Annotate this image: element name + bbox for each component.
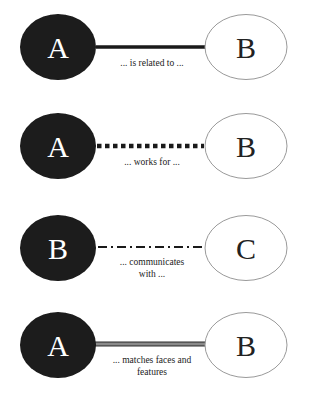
relation-row-1: A B (20, 14, 287, 80)
node-source-letter: A (47, 130, 69, 163)
edge-label-row-1: ... is related to ... (100, 57, 204, 69)
node-source-letter: B (48, 232, 68, 265)
node-target-letter: B (236, 31, 256, 64)
node-source-letter: A (47, 329, 69, 362)
edge-label-row-2: ... works for ... (100, 156, 204, 168)
edge-label-row-3: ... communicates with ... (100, 256, 204, 280)
node-target-letter: B (236, 329, 256, 362)
edge-label-line-1: ... is related to ... (120, 58, 183, 68)
edge-label-line-2: features (98, 366, 206, 378)
edge-label-line-1: ... matches faces and (98, 354, 206, 366)
node-target-letter: B (236, 130, 256, 163)
node-target-letter: C (236, 232, 256, 265)
relation-row-2: A B (20, 113, 287, 179)
edge-label-row-4: ... matches faces and features (98, 354, 206, 378)
edge-label-line-2: with ... (100, 268, 204, 280)
edge-label-line-1: ... communicates (100, 256, 204, 268)
edge-label-line-1: ... works for ... (124, 157, 180, 167)
node-source-letter: A (47, 31, 69, 64)
edge-double (95, 342, 206, 346)
